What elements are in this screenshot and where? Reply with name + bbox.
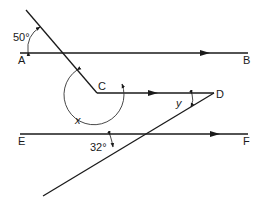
angle-label-50: 50° <box>13 31 30 43</box>
line-d-to-bottom <box>43 93 214 196</box>
parallel-arrow-cd-icon <box>148 90 158 96</box>
angle-arc-32 <box>110 135 113 147</box>
angle-arc-x <box>64 70 124 125</box>
geometry-diagram: 50° A B C D y x E 32° F <box>0 0 262 204</box>
angle-label-x: x <box>74 114 81 126</box>
angle-label-y: y <box>175 97 183 109</box>
point-label-a: A <box>18 54 26 66</box>
point-label-d: D <box>216 88 224 100</box>
point-label-e: E <box>18 135 25 147</box>
line-cd <box>97 90 214 96</box>
point-label-c: C <box>98 80 106 92</box>
angle-arc-y <box>191 94 193 107</box>
transversal-to-c <box>26 10 97 93</box>
parallel-arrow-ef-icon <box>210 131 220 137</box>
parallel-arrow-ab-icon <box>200 50 210 56</box>
line-ef <box>20 131 248 137</box>
point-label-f: F <box>243 135 250 147</box>
line-ab <box>20 50 248 56</box>
point-label-b: B <box>243 54 250 66</box>
angle-label-32: 32° <box>90 141 107 153</box>
